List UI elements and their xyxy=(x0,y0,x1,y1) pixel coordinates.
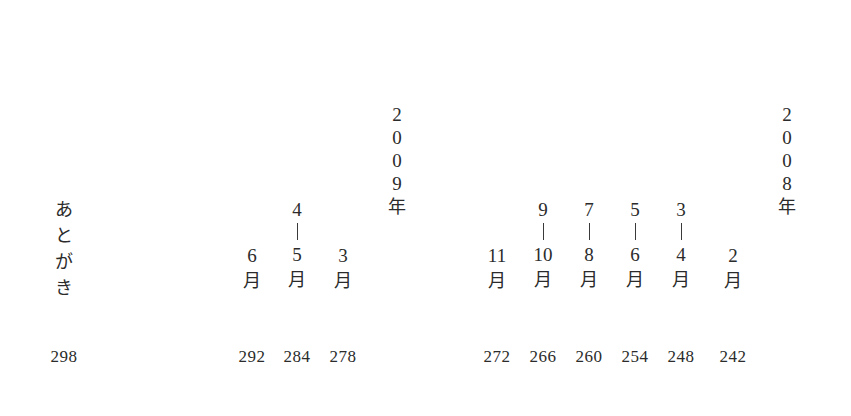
month-kanji: 月 xyxy=(534,267,552,292)
title-char: き xyxy=(55,275,73,301)
year-digit: 0 xyxy=(782,149,792,172)
page-number-266[interactable]: 266 xyxy=(523,348,563,366)
section-title-atogaki[interactable]: あ と が き xyxy=(52,197,76,301)
month-end-number: 6 xyxy=(247,244,257,268)
range-dash-icon xyxy=(543,223,544,240)
month-end-number: 8 xyxy=(584,243,594,267)
year-kanji: 年 xyxy=(778,195,796,219)
toc-page: { "page": { "background_color": "#ffffff… xyxy=(0,0,851,416)
page-number-292[interactable]: 292 xyxy=(232,348,272,366)
month-kanji: 月 xyxy=(288,267,306,292)
range-dash-icon xyxy=(297,223,298,240)
month-column-6[interactable]: 6 月 xyxy=(236,244,268,293)
page-number-atogaki[interactable]: 298 xyxy=(44,348,84,366)
month-kanji: 月 xyxy=(334,268,352,293)
month-start-number: 4 xyxy=(292,198,302,221)
range-dash-icon xyxy=(635,223,636,240)
year-label-2008: 2 0 0 8 年 xyxy=(776,103,798,219)
month-end-number: 6 xyxy=(630,243,640,267)
month-column-3[interactable]: 3 月 xyxy=(327,244,359,293)
year-digit: 2 xyxy=(782,103,792,126)
year-kanji: 年 xyxy=(388,195,406,219)
page-number-284[interactable]: 284 xyxy=(277,348,317,366)
month-column-5-6[interactable]: 5 6 月 xyxy=(619,198,651,292)
page-number-248[interactable]: 248 xyxy=(661,348,701,366)
month-start-number: 5 xyxy=(630,198,640,221)
title-char: が xyxy=(55,249,73,275)
page-number-278[interactable]: 278 xyxy=(323,348,363,366)
month-column-9-10[interactable]: 9 10 月 xyxy=(525,198,561,292)
month-kanji: 月 xyxy=(724,268,742,293)
month-end-number: 2 xyxy=(728,244,738,268)
month-column-3-4[interactable]: 3 4 月 xyxy=(665,198,697,292)
month-end-number: 10 xyxy=(534,243,553,267)
year-digit: 9 xyxy=(392,172,402,195)
month-column-7-8[interactable]: 7 8 月 xyxy=(573,198,605,292)
month-end-number: 3 xyxy=(338,244,348,268)
range-dash-icon xyxy=(589,223,590,240)
title-char: と xyxy=(55,223,73,249)
month-kanji: 月 xyxy=(672,267,690,292)
year-digit: 0 xyxy=(782,126,792,149)
page-number-242[interactable]: 242 xyxy=(713,348,753,366)
month-end-number: 11 xyxy=(488,244,506,268)
month-start-number: 9 xyxy=(538,198,548,221)
year-digit: 0 xyxy=(392,149,402,172)
range-dash-icon xyxy=(681,223,682,240)
month-start-number: 3 xyxy=(676,198,686,221)
month-column-11[interactable]: 11 月 xyxy=(479,244,515,293)
page-number-260[interactable]: 260 xyxy=(569,348,609,366)
month-end-number: 4 xyxy=(676,243,686,267)
title-char: あ xyxy=(55,197,73,223)
year-label-2009: 2 0 0 9 年 xyxy=(386,103,408,219)
month-kanji: 月 xyxy=(580,267,598,292)
page-number-272[interactable]: 272 xyxy=(477,348,517,366)
month-kanji: 月 xyxy=(626,267,644,292)
month-column-4-5[interactable]: 4 5 月 xyxy=(281,198,313,292)
page-number-254[interactable]: 254 xyxy=(615,348,655,366)
month-kanji: 月 xyxy=(243,268,261,293)
month-end-number: 5 xyxy=(292,243,302,267)
month-start-number: 7 xyxy=(584,198,594,221)
month-kanji: 月 xyxy=(488,268,506,293)
year-digit: 0 xyxy=(392,126,402,149)
month-column-2[interactable]: 2 月 xyxy=(717,244,749,293)
year-digit: 2 xyxy=(392,103,402,126)
year-digit: 8 xyxy=(782,172,792,195)
